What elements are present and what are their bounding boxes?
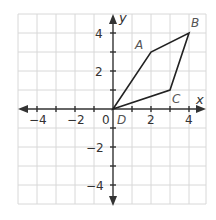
y-tick-label: −4 [86, 179, 104, 193]
x-axis-left-arrow-icon [18, 105, 28, 113]
x-tick-label: 4 [185, 113, 193, 127]
y-tick-label: 4 [95, 27, 103, 41]
x-tick-label: 0 [102, 113, 110, 127]
y-axis-label: y [118, 10, 127, 25]
x-axis-label: x [195, 92, 204, 107]
coordinate-plane: x y −4 −2 0 2 4 4 2 −2 −4 A B C D [0, 0, 216, 220]
point-label-d: D [117, 113, 126, 127]
point-label-b: B [191, 16, 199, 30]
x-axis [18, 105, 206, 113]
x-tick-label: −2 [67, 113, 85, 127]
y-tick-label: −2 [86, 141, 104, 155]
x-tick-label: 2 [147, 113, 155, 127]
x-tick-label: −4 [29, 113, 47, 127]
point-label-a: A [134, 38, 143, 52]
y-tick-label: 2 [95, 65, 103, 79]
point-label-c: C [172, 92, 181, 106]
y-axis-up-arrow-icon [109, 14, 117, 24]
y-axis [109, 14, 117, 206]
